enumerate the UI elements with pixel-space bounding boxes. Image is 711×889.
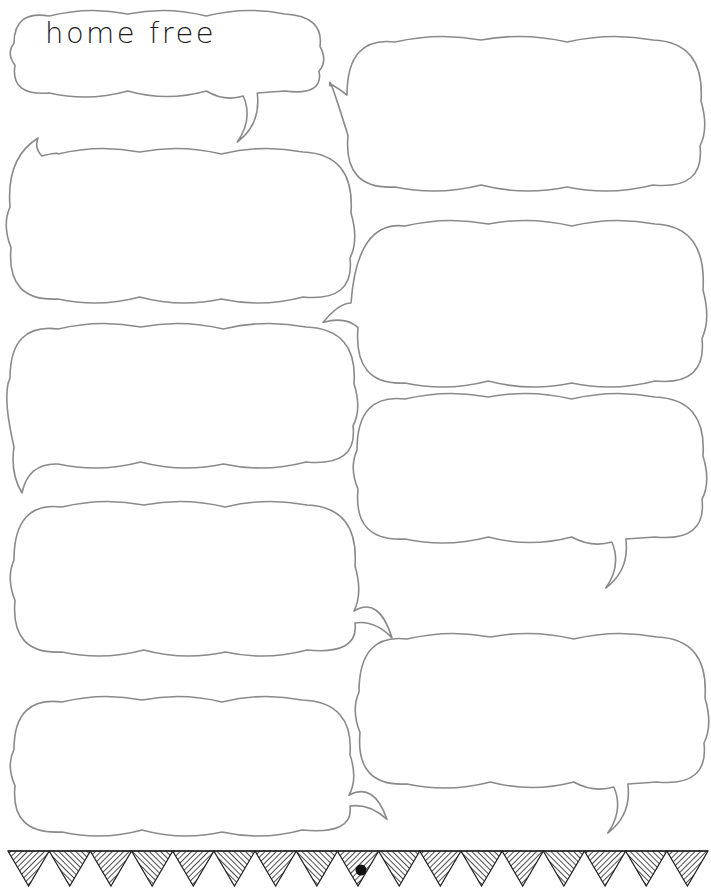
bunting-triangle xyxy=(49,851,90,886)
triangle-bunting-border xyxy=(0,850,711,889)
speech-bubble xyxy=(10,696,387,836)
speech-bubble xyxy=(10,501,392,656)
bunting-triangle xyxy=(132,851,173,886)
speech-bubble xyxy=(6,138,355,303)
bunting-triangle xyxy=(379,851,420,886)
bunting-triangle xyxy=(584,851,625,886)
speech-bubble xyxy=(7,323,358,493)
center-dot xyxy=(356,865,367,876)
bunting-triangle xyxy=(543,851,584,886)
bunting-triangle xyxy=(173,851,214,886)
speech-bubble-canvas xyxy=(0,0,711,850)
bunting-triangle xyxy=(667,851,708,886)
bunting-triangle xyxy=(296,851,337,886)
bunting-triangle xyxy=(626,851,667,886)
speech-bubble xyxy=(353,393,707,588)
bunting-triangle xyxy=(8,851,49,886)
bunting-triangle xyxy=(502,851,543,886)
bunting-triangle xyxy=(255,851,296,886)
bunting-triangle xyxy=(90,851,131,886)
bunting-triangle xyxy=(214,851,255,886)
speech-bubble xyxy=(323,220,707,387)
speech-bubble xyxy=(355,633,709,833)
bunting-triangle xyxy=(461,851,502,886)
worksheet-title: home free xyxy=(45,16,216,50)
speech-bubble xyxy=(330,36,705,191)
bunting-triangle xyxy=(420,851,461,886)
